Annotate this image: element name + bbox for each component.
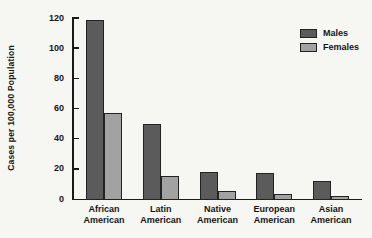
category-label-european: EuropeanAmerican <box>242 204 306 225</box>
bar-males-asian-american <box>313 181 331 200</box>
category-label-asian: AsianAmerican <box>299 204 363 225</box>
y-tick-label-100: 100 <box>38 44 64 53</box>
legend-swatch-females <box>300 43 317 52</box>
y-tick-label-60: 60 <box>38 104 64 113</box>
legend-label-males: Males <box>323 28 348 38</box>
y-tick-label-80: 80 <box>38 74 64 83</box>
bar-females-latin-american <box>161 176 179 200</box>
bar-females-european-american <box>274 194 292 200</box>
category-label-african: AfricanAmerican <box>72 204 136 225</box>
y-axis-title: Cases per 100,000 Population <box>6 45 16 171</box>
legend-swatch-males <box>300 29 317 38</box>
bar-females-native-american <box>218 191 236 200</box>
y-tick-label-40: 40 <box>38 134 64 143</box>
category-label-latin: LatinAmerican <box>129 204 193 225</box>
y-tick-label-120: 120 <box>38 14 64 23</box>
bar-females-african-american <box>104 113 122 200</box>
bar-chart-figure: Cases per 100,000 Population 02040608010… <box>0 0 372 238</box>
bar-males-african-american <box>86 20 104 200</box>
bar-males-latin-american <box>143 124 161 200</box>
y-tick-120 <box>74 17 79 19</box>
y-tick-60 <box>74 108 79 110</box>
y-tick-label-20: 20 <box>38 164 64 173</box>
bar-males-native-american <box>200 172 218 200</box>
y-tick-40 <box>74 138 79 140</box>
bar-males-european-american <box>256 173 274 200</box>
legend-label-females: Females <box>323 42 359 52</box>
y-tick-100 <box>74 47 79 49</box>
y-tick-80 <box>74 78 79 80</box>
bar-females-asian-american <box>331 196 349 200</box>
y-tick-label-0: 0 <box>38 195 64 204</box>
category-label-native: NativeAmerican <box>186 204 250 225</box>
y-tick-20 <box>74 168 79 170</box>
